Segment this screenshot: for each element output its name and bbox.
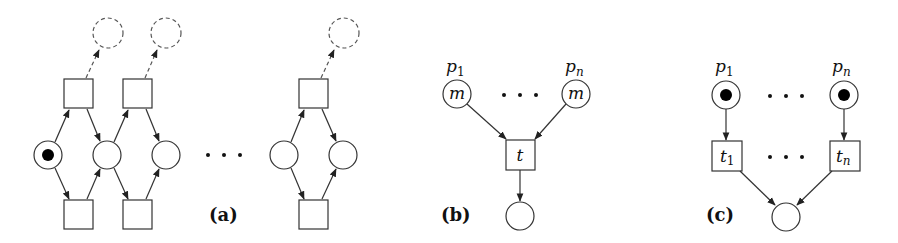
marking-m: m	[449, 83, 465, 103]
arc	[322, 169, 336, 199]
output-place	[506, 202, 534, 230]
arc	[291, 110, 304, 142]
transition-top	[123, 79, 152, 108]
ellipsis	[206, 153, 242, 157]
arc	[114, 110, 128, 142]
output-place	[772, 203, 800, 231]
ellipsis	[768, 94, 804, 98]
panel-label-a: (a)	[209, 204, 238, 225]
dashed-place	[151, 18, 181, 48]
place-label-p1: p1	[715, 56, 734, 79]
transition-bottom	[299, 200, 328, 229]
marking-m: m	[568, 83, 584, 103]
arc	[114, 168, 128, 199]
transition-label-t: t	[517, 145, 524, 165]
place-label-p1: p1	[446, 56, 465, 79]
arc	[87, 169, 100, 199]
arc	[322, 109, 336, 141]
transition-bottom	[123, 200, 152, 229]
dashed-arc	[86, 50, 99, 78]
place-label-pn: pn	[832, 56, 851, 79]
place	[93, 141, 121, 169]
place	[270, 141, 298, 169]
panel-label-b: (b)	[441, 204, 471, 225]
transition-top	[64, 79, 93, 108]
panel-label-c: (c)	[706, 204, 734, 225]
arc	[740, 171, 775, 205]
panel-a: (a)	[34, 18, 359, 229]
dashed-place	[93, 18, 123, 48]
token	[720, 89, 732, 101]
arc	[55, 168, 69, 199]
token	[42, 149, 54, 161]
arc	[535, 104, 566, 139]
petri-net-figure: (a) p1 pn m m t (b) p1 pn	[0, 0, 898, 243]
dashed-arc	[321, 50, 334, 78]
arc	[146, 169, 159, 199]
place	[152, 141, 180, 169]
arc	[87, 109, 100, 141]
panel-b: p1 pn m m t (b)	[441, 56, 590, 230]
transition-bottom	[64, 200, 93, 229]
place-label-pn: pn	[565, 56, 584, 79]
arc	[291, 168, 304, 199]
ellipsis	[502, 93, 538, 97]
dashed-place	[329, 18, 359, 48]
arc	[55, 110, 69, 142]
place	[329, 141, 357, 169]
arc	[146, 109, 159, 141]
transition-top	[299, 79, 328, 108]
ellipsis	[768, 155, 804, 159]
panel-c: p1 pn t1 tn (c)	[706, 56, 860, 231]
token	[838, 89, 850, 101]
arc	[797, 171, 832, 205]
arc	[467, 104, 506, 139]
dashed-arc	[145, 50, 157, 78]
